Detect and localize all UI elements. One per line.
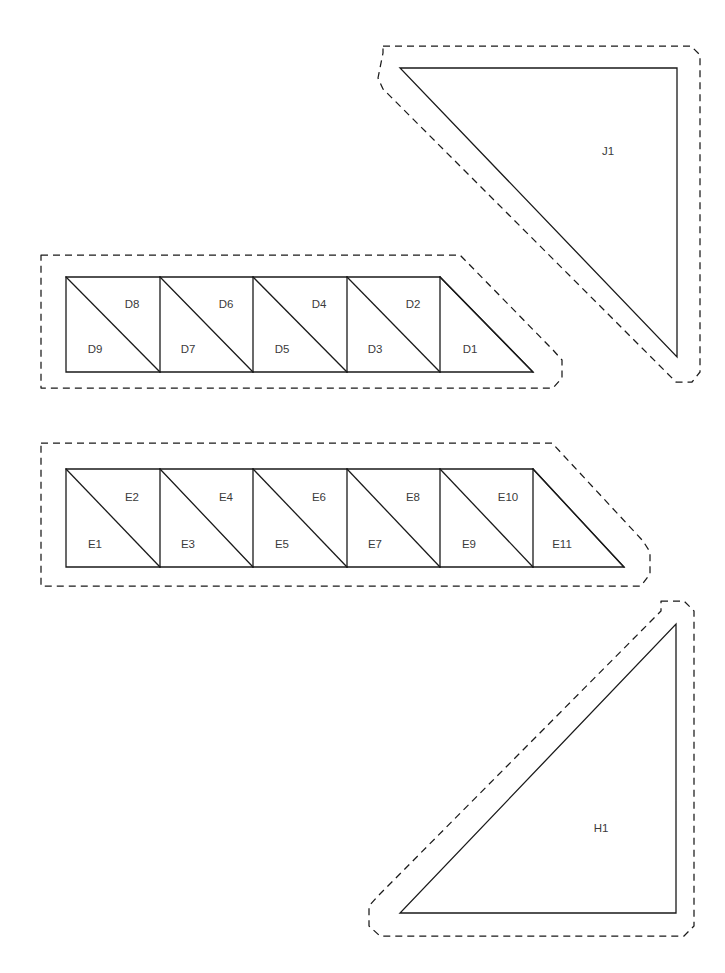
piece-label-e5: E5 — [275, 538, 289, 550]
piece-label-d6: D6 — [219, 298, 234, 310]
piece-label-d9: D9 — [88, 343, 103, 355]
piece-label-e8: E8 — [406, 491, 420, 503]
piece-label-d1: D1 — [463, 343, 478, 355]
unit-j-group[interactable]: J1 — [378, 46, 700, 382]
unit-e-divider-4 — [440, 469, 533, 567]
unit-d-divider-1 — [160, 277, 253, 372]
unit-d-divider-3 — [347, 277, 440, 372]
piece-label-e10: E10 — [498, 491, 518, 503]
piece-label-d8: D8 — [125, 298, 140, 310]
pattern-canvas: J1 D9 D8 D7 D6 D5 D4 D3 D2 D1 — [0, 0, 725, 973]
unit-j-piece-outline[interactable] — [400, 68, 677, 357]
unit-e-divider-1 — [160, 469, 253, 567]
unit-e-divider-3 — [347, 469, 440, 567]
unit-h-seam-allowance — [369, 601, 694, 936]
unit-h-group[interactable]: H1 — [369, 601, 694, 936]
piece-label-e1: E1 — [88, 538, 102, 550]
piece-label-j1: J1 — [602, 145, 614, 157]
unit-e-strip-outline[interactable] — [66, 469, 624, 567]
unit-e-divider-0 — [66, 469, 160, 567]
piece-label-d2: D2 — [406, 298, 421, 310]
piece-label-e6: E6 — [312, 491, 326, 503]
unit-j-seam-allowance — [378, 46, 700, 382]
pattern-sheet: J1 D9 D8 D7 D6 D5 D4 D3 D2 D1 — [0, 0, 725, 973]
unit-e-divider-5 — [533, 469, 624, 567]
unit-h-piece-outline[interactable] — [400, 624, 676, 913]
piece-label-e4: E4 — [219, 491, 234, 503]
unit-d-divider-4 — [440, 277, 533, 372]
piece-label-e7: E7 — [368, 538, 382, 550]
unit-d-divider-2 — [253, 277, 347, 372]
unit-e-group[interactable]: E1 E2 E3 E4 E5 E6 E7 E8 E9 E10 E11 — [41, 443, 650, 586]
piece-label-d4: D4 — [312, 298, 327, 310]
piece-label-e2: E2 — [125, 491, 139, 503]
unit-e-divider-2 — [253, 469, 347, 567]
piece-label-e9: E9 — [462, 538, 476, 550]
piece-label-h1: H1 — [594, 822, 609, 834]
unit-d-divider-0 — [66, 277, 160, 372]
piece-label-d5: D5 — [275, 343, 290, 355]
piece-label-d7: D7 — [181, 343, 196, 355]
piece-label-e3: E3 — [181, 538, 195, 550]
piece-label-d3: D3 — [368, 343, 383, 355]
piece-label-e11: E11 — [552, 538, 572, 550]
unit-d-group[interactable]: D9 D8 D7 D6 D5 D4 D3 D2 D1 — [41, 255, 562, 388]
